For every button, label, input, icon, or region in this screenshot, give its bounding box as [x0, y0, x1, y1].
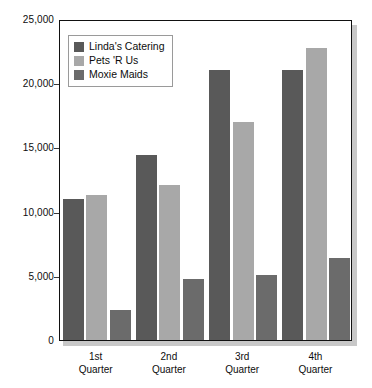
x-tick-label-line: Quarter — [206, 363, 279, 376]
legend-label: Moxie Maids — [89, 69, 148, 80]
legend-item: Moxie Maids — [74, 68, 165, 81]
y-tick-label: 5,000 — [0, 272, 54, 282]
bar — [256, 275, 277, 340]
legend-label: Linda's Catering — [89, 41, 165, 52]
legend-item: Linda's Catering — [74, 40, 165, 53]
bar — [159, 185, 180, 340]
bar — [306, 48, 327, 340]
bar — [136, 155, 157, 340]
y-tick-label: 0 — [0, 336, 54, 346]
bar — [183, 279, 204, 340]
bar — [209, 70, 230, 340]
legend-swatch-icon — [74, 70, 84, 80]
x-tick-label-line: Quarter — [132, 363, 205, 376]
x-tick-label-line: 2nd — [132, 350, 205, 363]
bar — [86, 195, 107, 340]
x-tick-label-line: 3rd — [206, 350, 279, 363]
chart-legend: Linda's CateringPets 'R UsMoxie Maids — [68, 35, 173, 87]
x-tick-label-line: Quarter — [279, 363, 352, 376]
bar — [329, 258, 350, 340]
legend-label: Pets 'R Us — [89, 55, 138, 66]
x-tick-label-line: 1st — [59, 350, 132, 363]
x-axis: 1stQuarter2ndQuarter3rdQuarter4thQuarter — [59, 350, 352, 388]
bar — [63, 199, 84, 340]
bar-chart: 05,00010,00015,00020,00025,000 Linda's C… — [0, 0, 372, 388]
bar — [110, 310, 131, 340]
y-axis: 05,00010,00015,00020,00025,000 — [0, 0, 54, 388]
y-tick-label: 15,000 — [0, 143, 54, 153]
bar — [233, 122, 254, 340]
x-tick-label-line: Quarter — [59, 363, 132, 376]
legend-swatch-icon — [74, 56, 84, 66]
y-tick-label: 25,000 — [0, 15, 54, 25]
x-tick-label-line: 4th — [279, 350, 352, 363]
legend-item: Pets 'R Us — [74, 54, 165, 67]
y-tick-label: 10,000 — [0, 208, 54, 218]
legend-swatch-icon — [74, 42, 84, 52]
x-tick-label: 3rdQuarter — [206, 350, 279, 376]
x-tick-label: 1stQuarter — [59, 350, 132, 376]
y-tick-label: 20,000 — [0, 79, 54, 89]
x-tick-label: 2ndQuarter — [132, 350, 205, 376]
bar — [282, 70, 303, 340]
x-tick-label: 4thQuarter — [279, 350, 352, 376]
